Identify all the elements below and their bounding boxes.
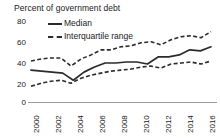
series-line-interquartile-upper xyxy=(31,32,211,66)
plot-area xyxy=(0,0,220,138)
chart-container: Percent of government debt 80 60 40 20 0… xyxy=(0,0,220,138)
series-line-interquartile-lower xyxy=(31,61,211,86)
series-line-median xyxy=(31,47,211,80)
